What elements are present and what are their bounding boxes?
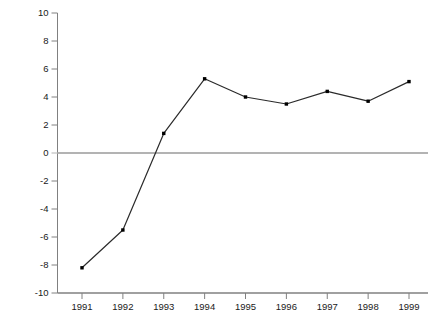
y-axis-tick-label: 6	[43, 63, 48, 74]
y-axis-tick-label: 10	[38, 7, 49, 18]
y-axis-tick-label: -10	[35, 287, 49, 298]
x-axis-tick-label: 1993	[153, 301, 174, 312]
y-axis-tick-label: -4	[40, 203, 48, 214]
data-point-marker	[407, 80, 410, 83]
y-axis-tick-label: -2	[40, 175, 48, 186]
x-axis-tick-label: 1997	[317, 301, 338, 312]
x-axis-tick-label: 1994	[194, 301, 215, 312]
x-axis-tick-label: 1998	[358, 301, 379, 312]
data-point-marker	[162, 132, 165, 135]
y-axis-tick-label: -6	[40, 231, 48, 242]
x-axis-tick-label: 1995	[235, 301, 256, 312]
y-axis-tick-label: 2	[43, 119, 48, 130]
data-point-marker	[80, 266, 83, 269]
plot-background	[0, 0, 432, 321]
chart-container: Percent 1086420-2-4-6-8-10 1991199219931…	[0, 0, 432, 321]
x-axis-tick-label: 1996	[276, 301, 297, 312]
data-point-marker	[285, 102, 288, 105]
x-axis-tick-label: 1999	[398, 301, 419, 312]
x-axis-tick-label: 1991	[71, 301, 92, 312]
data-point-marker	[244, 95, 247, 98]
data-point-marker	[366, 100, 369, 103]
y-axis-tick-label: -8	[40, 259, 48, 270]
y-axis-tick-label: 0	[43, 147, 48, 158]
y-axis-tick-label: 4	[43, 91, 48, 102]
y-axis-tick-label: 8	[43, 35, 48, 46]
line-chart-plot: 1086420-2-4-6-8-10 199119921993199419951…	[0, 0, 432, 321]
data-point-marker	[326, 90, 329, 93]
data-point-marker	[121, 228, 124, 231]
data-point-marker	[203, 77, 206, 80]
x-axis-tick-label: 1992	[112, 301, 133, 312]
